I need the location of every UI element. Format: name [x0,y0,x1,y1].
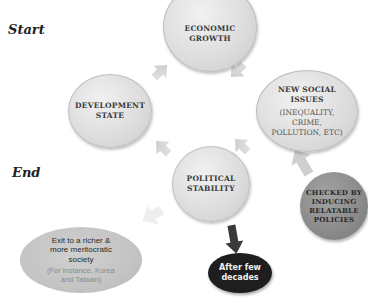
economic-growth-line1: ECONOMIC [185,24,236,34]
exit-line3: society [69,255,94,265]
node-new-social-issues: NEW SOCIAL ISSUES (INEQUALITY, CRIME, PO… [256,70,358,152]
node-political-stability: POLITICAL STABILITY [172,146,250,222]
exit-sub1: (For instance, Korea [47,266,115,275]
development-state-line1: DEVELOPMENT [75,101,145,111]
arrow-political-to-exit [137,200,167,230]
node-checked-by: CHECKED BY INDUCING RELATABLE POLICIES [300,172,368,240]
arrow-development-to-economic [148,59,173,84]
exit-line1: Exit to a richer & [52,236,111,246]
exit-sub2: and Taiwan) [61,275,101,284]
node-exit: Exit to a richer & more meritocratic soc… [20,227,142,293]
political-stability-line2: STABILITY [187,184,235,194]
new-social-issues-sub1: (INEQUALITY, [280,108,335,118]
checked-by-line4: POLICIES [314,215,354,224]
after-few-decades-line1: After few [219,263,261,273]
arrow-political-to-development [150,135,175,160]
new-social-issues-line2: ISSUES [290,95,323,105]
political-stability-line1: POLITICAL [187,174,236,184]
arrow-political-to-decades [223,224,246,256]
new-social-issues-sub2: CRIME, [292,118,322,128]
node-development-state: DEVELOPMENT STATE [68,74,152,148]
economic-growth-line2: GROWTH [185,34,236,44]
node-after-few-decades: After few decades [208,253,272,293]
new-social-issues-sub3: POLLUTION, ETC) [271,128,342,138]
after-few-decades-line2: decades [221,273,258,283]
checked-by-line3: RELATABLE [309,206,358,215]
checked-by-line1: CHECKED BY [306,188,362,197]
end-label: End [12,165,40,180]
start-label: Start [8,22,45,37]
development-state-line2: STATE [96,111,124,121]
exit-line2: more meritocratic [50,245,112,255]
new-social-issues-line1: NEW SOCIAL [278,85,336,95]
checked-by-line2: INDUCING [312,197,357,206]
